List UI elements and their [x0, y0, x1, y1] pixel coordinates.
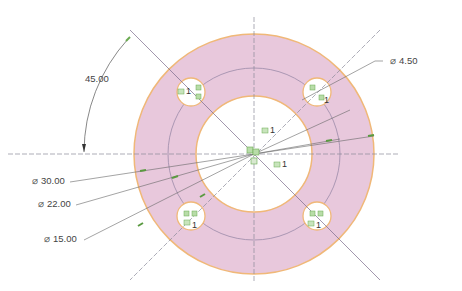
angle-dimension[interactable]	[82, 37, 130, 152]
constraint-count-bottom-left: 1	[192, 220, 197, 230]
inner-diameter-value: 15.00	[53, 233, 77, 244]
diameter-symbol-icon: ⌀	[38, 198, 44, 209]
pitch-diameter-value: 22.00	[47, 198, 71, 209]
hole-diameter-value: 4.50	[399, 55, 418, 66]
angle-dimension-label[interactable]: 45.00	[85, 73, 109, 84]
angle-value: 45.00	[85, 73, 109, 84]
diameter-symbol-icon: ⌀	[390, 55, 396, 66]
bolt-hole-bottom-left[interactable]	[177, 202, 205, 230]
constraint-count-top-right: 1	[324, 95, 329, 105]
constraint-count-top-left: 1	[186, 86, 191, 96]
constraint-count-center-lower: 1	[282, 159, 287, 169]
pitch-diameter-label[interactable]: ⌀22.00	[38, 198, 71, 209]
diameter-symbol-icon: ⌀	[44, 233, 50, 244]
diameter-symbol-icon: ⌀	[32, 175, 38, 186]
hole-diameter-label[interactable]: ⌀4.50	[390, 55, 418, 66]
inner-diameter-label[interactable]: ⌀15.00	[44, 233, 77, 244]
outer-diameter-label[interactable]: ⌀30.00	[32, 175, 65, 186]
constraint-count-center-upper: 1	[270, 125, 275, 135]
outer-diameter-value: 30.00	[41, 175, 65, 186]
cad-sketch-canvas[interactable]	[0, 0, 462, 291]
constraint-count-bottom-right: 1	[316, 220, 321, 230]
